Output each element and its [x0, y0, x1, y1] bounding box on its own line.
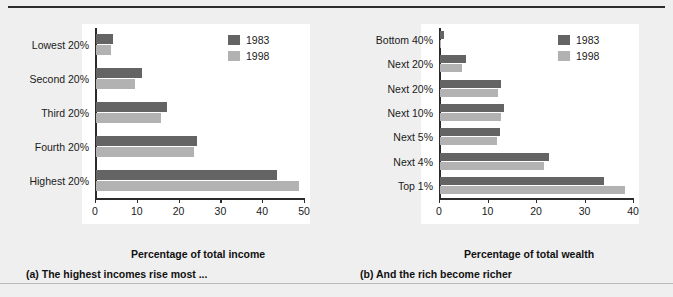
- x-axis-line: [95, 198, 304, 200]
- bar-1983-next-5-: [440, 128, 500, 136]
- bar-1983-fourth-20-: [96, 136, 197, 146]
- x-axis-tick-label: 30: [215, 205, 227, 217]
- legend-item-1983: 1983: [228, 34, 269, 46]
- bar-1998-bottom-40-: [440, 40, 441, 48]
- chart-panel-b: 010203040Bottom 40%Next 20%Next 20%Next …: [336, 10, 672, 280]
- x-axis-tick-label: 50: [298, 205, 310, 217]
- bar-1983-next-4-: [440, 153, 549, 161]
- legend-swatch-icon: [228, 51, 240, 61]
- category-label: Top 1%: [398, 180, 433, 192]
- category-label: Next 5%: [393, 131, 433, 143]
- x-axis-tick: [439, 198, 440, 203]
- x-axis-tick-label: 0: [436, 205, 442, 217]
- legend-swatch-icon: [558, 35, 570, 45]
- bar-1998-next-20-: [440, 89, 498, 97]
- x-axis-title-a: Percentage of total income: [131, 248, 265, 260]
- bar-1983-third-20-: [96, 102, 167, 112]
- bar-1983-next-20-: [440, 55, 466, 63]
- legend-item-1998: 1998: [558, 50, 599, 62]
- category-label: Fourth 20%: [35, 141, 89, 153]
- x-axis-tick: [488, 198, 489, 203]
- bar-1998-next-4-: [440, 162, 544, 170]
- x-axis-tick: [179, 198, 180, 203]
- x-axis-title-b: Percentage of total wealth: [464, 248, 594, 260]
- category-label: Third 20%: [41, 107, 89, 119]
- plot-area-b: 010203040Bottom 40%Next 20%Next 20%Next …: [421, 24, 639, 224]
- legend-a: 19831998: [228, 34, 269, 66]
- bar-1983-highest-20-: [96, 170, 277, 180]
- x-axis-tick: [262, 198, 263, 203]
- legend-swatch-icon: [228, 35, 240, 45]
- bottom-rule: [0, 283, 673, 284]
- x-axis-tick-label: 40: [256, 205, 268, 217]
- bar-1998-next-10-: [440, 113, 501, 121]
- category-label: Highest 20%: [29, 175, 89, 187]
- bar-1998-second-20-: [96, 79, 135, 89]
- x-axis-tick: [536, 198, 537, 203]
- panel-caption-a: (a) The highest incomes rise most ...: [26, 268, 207, 280]
- x-axis-tick: [585, 198, 586, 203]
- bar-1998-next-20-: [440, 64, 462, 72]
- x-axis-tick-label: 40: [627, 205, 639, 217]
- x-axis-tick-label: 30: [579, 205, 591, 217]
- bar-1998-highest-20-: [96, 181, 299, 191]
- x-axis-tick: [137, 198, 138, 203]
- legend-label: 1983: [576, 34, 599, 46]
- category-label: Next 4%: [393, 156, 433, 168]
- bar-1998-next-5-: [440, 137, 497, 145]
- x-axis-tick-label: 10: [482, 205, 494, 217]
- category-label: Next 10%: [387, 107, 433, 119]
- bar-1998-top-1-: [440, 186, 625, 194]
- legend-item-1998: 1998: [228, 50, 269, 62]
- x-axis-tick: [304, 198, 305, 203]
- bar-1998-fourth-20-: [96, 147, 194, 157]
- plot-area-a: 01020304050Lowest 20%Second 20%Third 20%…: [82, 24, 310, 224]
- legend-label: 1998: [576, 50, 599, 62]
- x-axis-tick-label: 10: [131, 205, 143, 217]
- bar-1983-second-20-: [96, 68, 142, 78]
- top-rule: [8, 6, 665, 8]
- category-label: Second 20%: [29, 73, 89, 85]
- x-axis-tick-label: 0: [92, 205, 98, 217]
- panel-caption-b: (b) And the rich become richer: [360, 268, 512, 280]
- x-axis-tick: [633, 198, 634, 203]
- x-axis-tick: [220, 198, 221, 203]
- bar-1983-top-1-: [440, 177, 604, 185]
- bar-1998-third-20-: [96, 113, 161, 123]
- category-label: Bottom 40%: [376, 34, 433, 46]
- chart-panel-a: 01020304050Lowest 20%Second 20%Third 20%…: [0, 10, 336, 280]
- panels-row: 01020304050Lowest 20%Second 20%Third 20%…: [0, 10, 673, 280]
- legend-label: 1998: [246, 50, 269, 62]
- bar-1983-lowest-20-: [96, 34, 113, 44]
- bar-1983-next-20-: [440, 80, 501, 88]
- x-axis-tick: [95, 198, 96, 203]
- bar-1998-lowest-20-: [96, 45, 111, 55]
- x-axis-tick-label: 20: [530, 205, 542, 217]
- bar-1983-next-10-: [440, 104, 504, 112]
- legend-b: 19831998: [558, 34, 599, 66]
- figure-container: 01020304050Lowest 20%Second 20%Third 20%…: [0, 0, 673, 297]
- category-label: Lowest 20%: [32, 39, 89, 51]
- category-label: Next 20%: [387, 58, 433, 70]
- legend-item-1983: 1983: [558, 34, 599, 46]
- legend-swatch-icon: [558, 51, 570, 61]
- bar-1983-bottom-40-: [440, 31, 444, 39]
- x-axis-tick-label: 20: [173, 205, 185, 217]
- legend-label: 1983: [246, 34, 269, 46]
- category-label: Next 20%: [387, 83, 433, 95]
